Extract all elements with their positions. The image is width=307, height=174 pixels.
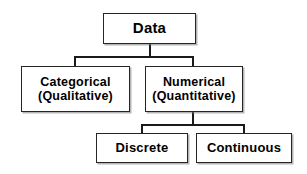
- connector-level1-horizontal-bar: [74, 56, 194, 58]
- node-numerical-label: Numerical: [163, 75, 225, 89]
- connector-bar-to-discrete: [141, 124, 143, 134]
- node-data: Data: [103, 13, 196, 44]
- connector-bar-to-numerical: [192, 56, 194, 67]
- node-numerical-sublabel: (Quantitative): [152, 89, 235, 103]
- node-discrete-label: Discrete: [116, 141, 169, 156]
- node-categorical: Categorical (Qualitative): [21, 66, 130, 112]
- connector-bar-to-continuous: [243, 124, 245, 134]
- node-continuous: Continuous: [196, 133, 292, 163]
- node-discrete: Discrete: [96, 133, 188, 163]
- connector-level2-horizontal-bar: [141, 124, 245, 126]
- node-continuous-label: Continuous: [207, 141, 281, 156]
- node-categorical-sublabel: (Qualitative): [38, 89, 113, 103]
- node-data-label: Data: [133, 20, 166, 37]
- data-types-tree-diagram: Data Categorical (Qualitative) Numerical…: [0, 0, 307, 174]
- node-categorical-label: Categorical: [40, 75, 110, 89]
- connector-bar-to-categorical: [74, 56, 76, 67]
- node-numerical: Numerical (Quantitative): [145, 66, 243, 112]
